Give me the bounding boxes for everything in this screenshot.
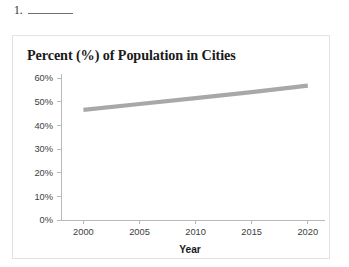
y-axis-tick-label: 10% (34, 192, 53, 202)
y-axis-tick-label: 20% (34, 168, 53, 178)
y-axis-tick-label: 40% (34, 121, 53, 131)
data-series-line (83, 86, 307, 110)
x-axis-tick-label: 2015 (241, 227, 262, 237)
y-axis-tick-label: 60% (34, 73, 53, 83)
x-axis-tick-label: 2010 (185, 227, 206, 237)
question-number: 1. (14, 4, 23, 16)
chart-title: Percent (%) of Population in Cities (27, 47, 329, 64)
question-row: 1. (14, 4, 73, 16)
chart-card: Percent (%) of Population in Cities 0%10… (12, 35, 330, 259)
y-axis-tick-label: 50% (34, 97, 53, 107)
x-axis-tick-group: 20002005201020152020 (73, 220, 318, 237)
x-axis-title: Year (179, 244, 201, 255)
x-axis-tick-label: 2005 (129, 227, 150, 237)
x-axis-tick-label: 2020 (297, 227, 318, 237)
line-chart-svg: 0%10%20%30%40%50%60% 2000200520102015202… (13, 66, 331, 260)
y-axis-tick-group: 0%10%20%30%40%50%60% (34, 73, 61, 225)
x-axis-tick-label: 2000 (73, 227, 94, 237)
answer-blank[interactable] (28, 4, 73, 14)
y-axis-tick-label: 30% (34, 144, 53, 154)
plot-area: 0%10%20%30%40%50%60% 2000200520102015202… (13, 66, 331, 260)
y-axis-tick-label: 0% (40, 215, 53, 225)
